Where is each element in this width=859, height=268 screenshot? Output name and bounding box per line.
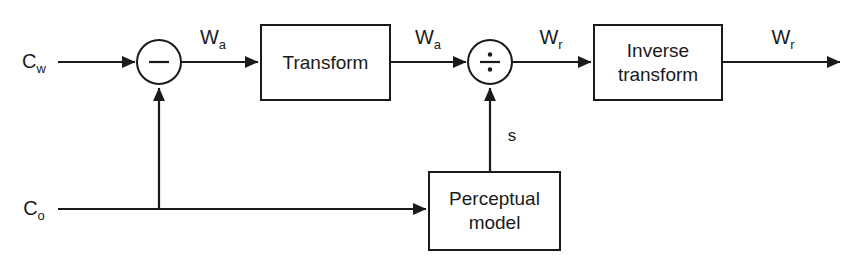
block-inverse-transform [594,25,722,100]
divide-icon-dot-top [488,52,492,56]
block-perceptual-model-label-line2: model [469,212,521,233]
input-co-subscript: o [38,208,45,223]
input-label-co: Co [23,197,45,223]
signal-wr-2-subscript: r [790,37,795,52]
signal-wr-1-base: W [539,26,558,48]
signal-label-s: s [508,126,517,145]
signal-wa-2-base: W [415,26,434,48]
signal-wa-1-subscript: a [219,37,227,52]
input-cw-subscript: w [36,61,47,76]
block-perceptual-model [429,172,560,250]
block-transform-label: Transform [283,52,369,73]
divide-icon-dot-bottom [488,67,492,71]
block-inverse-transform-label-line1: Inverse [627,40,689,61]
signal-wa-1-base: W [200,26,219,48]
input-label-cw: Cw [22,50,46,76]
block-perceptual-model-label-line1: Perceptual [449,188,540,209]
signal-wa-2-subscript: a [434,37,442,52]
signal-wr-2-base: W [771,26,790,48]
input-co-base: C [23,197,37,219]
signal-label-wa-1: Wa [200,26,227,52]
signal-label-wa-2: Wa [415,26,442,52]
signal-wr-1-subscript: r [558,37,563,52]
block-diagram: Transform Inverse transform Perceptual m… [0,0,859,268]
signal-label-wr-2: Wr [771,26,795,52]
block-inverse-transform-label-line2: transform [618,64,698,85]
signal-label-wr-1: Wr [539,26,563,52]
input-cw-base: C [22,50,36,72]
diagram-canvas: Transform Inverse transform Perceptual m… [0,0,859,268]
